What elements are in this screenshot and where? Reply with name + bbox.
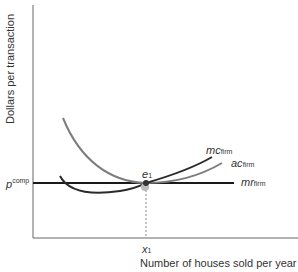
equilibrium-label: e1 xyxy=(142,168,152,180)
cost-curves-diagram xyxy=(0,0,298,272)
mc-firm-curve xyxy=(60,157,212,193)
ac-label: acfirm xyxy=(231,157,254,169)
x-axis-label: Number of houses sold per year xyxy=(140,257,297,269)
x1-tick-label: x1 xyxy=(142,243,151,255)
price-label: pcomp xyxy=(6,177,29,190)
mc-label: mcfirm xyxy=(206,144,232,156)
equilibrium-dot xyxy=(143,180,149,186)
y-axis-label: Dollars per transaction xyxy=(4,9,16,129)
mr-label: mrfirm xyxy=(241,176,266,188)
